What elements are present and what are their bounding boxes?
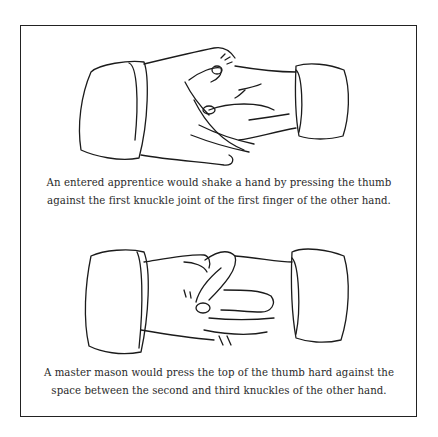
caption-apprentice: An entered apprentice would shake a hand… xyxy=(20,174,418,210)
handshake-illustration-apprentice xyxy=(0,40,438,170)
caption-line: against the first knuckle joint of the f… xyxy=(20,192,418,210)
handshake-drawing-icon xyxy=(0,230,438,360)
handshake-illustration-master-mason xyxy=(0,230,438,360)
handshake-drawing-icon xyxy=(0,40,438,170)
caption-line: An entered apprentice would shake a hand… xyxy=(20,174,418,192)
caption-line: space between the second and third knuck… xyxy=(20,382,418,400)
caption-line: A master mason would press the top of th… xyxy=(20,364,418,382)
caption-master-mason: A master mason would press the top of th… xyxy=(20,364,418,400)
